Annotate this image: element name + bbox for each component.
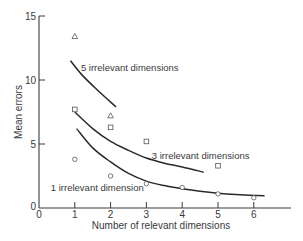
circle-marker <box>144 181 148 185</box>
square-marker <box>108 125 113 130</box>
circle-marker <box>108 174 112 178</box>
x-tick-label: 0 <box>36 209 42 220</box>
x-tick-label: 6 <box>251 209 257 220</box>
x-axis-label: Number of relevant dimensions <box>92 220 230 231</box>
data-markers <box>72 33 256 199</box>
series-label: 3 irrelevant dimensions <box>152 150 250 161</box>
series-label: 5 irrelevant dimensions <box>81 62 179 73</box>
y-axis-label: Mean errors <box>13 85 24 139</box>
series-labels: 5 irrelevant dimensions3 irrelevant dime… <box>51 62 250 193</box>
circle-marker <box>180 185 184 189</box>
chart-svg: 0510150123456 5 irrelevant dimensions3 i… <box>0 0 303 241</box>
chart-container: 0510150123456 5 irrelevant dimensions3 i… <box>0 0 303 241</box>
fit-curve <box>75 112 204 172</box>
y-tick-label: 5 <box>30 139 36 150</box>
circle-marker <box>216 192 220 196</box>
y-tick-label: 10 <box>25 75 37 86</box>
x-tick-label: 2 <box>108 209 114 220</box>
x-tick-label: 1 <box>72 209 78 220</box>
y-tick-label: 15 <box>25 11 37 22</box>
square-marker <box>73 107 78 112</box>
x-tick-label: 5 <box>215 209 221 220</box>
circle-marker <box>252 196 256 200</box>
square-marker <box>216 163 221 168</box>
triangle-marker <box>72 33 78 38</box>
x-tick-label: 3 <box>144 209 150 220</box>
series-label: 1 irrelevant dimension <box>51 182 144 193</box>
circle-marker <box>73 157 77 161</box>
triangle-marker <box>108 113 114 118</box>
square-marker <box>144 139 149 144</box>
fit-curves <box>71 61 265 196</box>
x-tick-label: 4 <box>179 209 185 220</box>
